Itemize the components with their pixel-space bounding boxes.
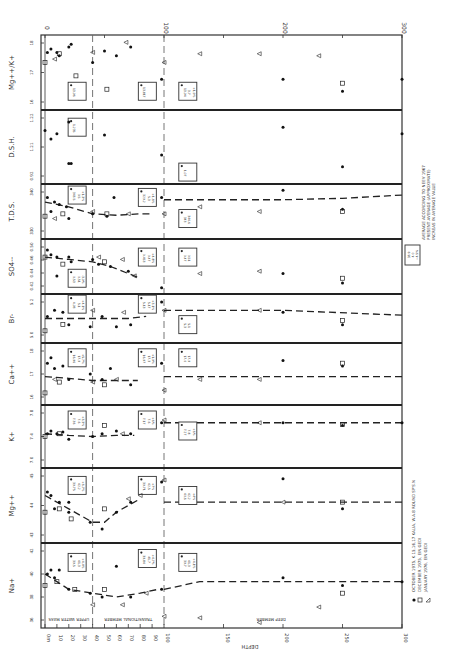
point-dec-1975 — [341, 319, 345, 323]
point-oct-1975 — [67, 217, 70, 220]
legend-dec-text: DECEMBER 1975, EIN GEDI — [417, 538, 422, 592]
point-oct-1975 — [282, 126, 285, 129]
point-oct-1975 — [160, 78, 163, 81]
value-tick-label: 38 — [29, 594, 34, 600]
bottom-depth-label: 70 — [129, 635, 135, 641]
point-oct-1975 — [46, 315, 49, 318]
bottom-depth-label: 30 — [82, 635, 88, 641]
top-depth-label: 200 — [282, 22, 289, 34]
trend-line — [164, 582, 402, 590]
point-oct-1975 — [55, 274, 58, 277]
point-jan-1976 — [122, 310, 126, 314]
point-oct-1975 — [282, 359, 285, 362]
legend-oct-marker — [412, 598, 415, 601]
value-tick-label: 43 — [29, 532, 34, 538]
box-value: 7.6 — [147, 419, 151, 424]
panel-label-1: D.S.H. — [8, 136, 16, 158]
point-oct-1975 — [53, 576, 56, 579]
box-marker — [70, 413, 72, 415]
point-oct-1975 — [67, 438, 70, 441]
bottom-depth-label: 50 — [106, 635, 112, 641]
point-jan-1976 — [257, 421, 261, 425]
point-oct-1975 — [109, 367, 112, 370]
point-jan-1976 — [97, 255, 101, 259]
point-oct-1975 — [91, 258, 94, 261]
point-oct-1975 — [160, 286, 163, 289]
point-oct-1975 — [55, 432, 58, 435]
box-value: 0.47 — [183, 255, 187, 262]
box-value: +6% — [192, 428, 196, 435]
panel-label-0: Mg++/K+ — [8, 55, 16, 90]
legend-jan-marker — [426, 598, 430, 602]
value-tick-label: 44 — [29, 503, 34, 509]
point-oct-1975 — [129, 383, 132, 386]
value-tick-label: 5.0 — [29, 331, 34, 338]
box-marker — [181, 318, 183, 320]
plot-area: 01002003000m1020304050607080901001502002… — [8, 22, 436, 650]
value-tick-label: 42 — [29, 548, 34, 554]
value-tick-label: 0.50 — [29, 242, 34, 251]
value-tick-label: 0.44 — [29, 268, 34, 277]
legend-dec-marker — [418, 598, 422, 602]
point-jan-1976 — [53, 57, 57, 61]
box-value: 5.13 — [142, 302, 146, 309]
box-marker — [181, 211, 183, 213]
box-value: +4.7% — [151, 554, 155, 564]
point-oct-1975 — [55, 132, 58, 135]
top-depth-label: 0 — [44, 26, 51, 30]
box-value: 1.07 — [183, 170, 187, 177]
box-value: 7.36 — [72, 418, 76, 425]
box-value: 329.2 — [142, 194, 146, 203]
point-oct-1975 — [91, 61, 94, 64]
value-tick-label: 18 — [29, 40, 34, 46]
point-oct-1975 — [49, 253, 52, 256]
point-oct-1975 — [70, 162, 73, 165]
top-depth-label: 300 — [401, 22, 408, 34]
point-oct-1975 — [49, 494, 52, 497]
point-oct-1975 — [67, 378, 70, 381]
point-oct-1975 — [160, 301, 163, 304]
point-oct-1975 — [115, 54, 118, 57]
box-value: +7% — [151, 483, 155, 490]
box-value: 39.7 — [183, 560, 187, 567]
box-value: +4.8% — [151, 253, 155, 263]
box-value: 0.453 — [142, 254, 146, 263]
point-jan-1976 — [198, 52, 202, 56]
box-value: +6% — [151, 417, 155, 424]
point-oct-1975 — [129, 596, 132, 599]
box-value: +1.6% — [151, 193, 155, 203]
box-value: 41.7 — [147, 556, 151, 563]
bottom-depth-label: 40 — [94, 635, 100, 641]
box-value: 7.6 — [77, 419, 81, 424]
box-value: 17.9 — [77, 355, 81, 362]
point-oct-1975 — [101, 315, 104, 318]
box-value: 42.5 — [147, 483, 151, 490]
panel-label-8: Na+ — [8, 578, 16, 594]
point-oct-1975 — [58, 203, 61, 206]
box-marker — [70, 478, 72, 480]
box-marker — [140, 551, 142, 553]
bottom-depth-label: 100 — [165, 633, 171, 643]
point-dec-1975 — [103, 383, 107, 387]
point-oct-1975 — [401, 132, 404, 135]
depth-axis-title: DEPTH — [241, 644, 258, 650]
box-value: +4.1% — [81, 300, 85, 310]
box-value: 16.96 — [72, 355, 76, 364]
point-dec-1975 — [341, 81, 345, 85]
panel-label-6: K+ — [8, 431, 16, 442]
point-jan-1976 — [120, 257, 124, 261]
point-oct-1975 — [282, 311, 285, 314]
box-value: 0.5 — [77, 194, 81, 199]
point-oct-1975 — [101, 432, 104, 435]
point-oct-1975 — [55, 51, 58, 54]
trend-line — [164, 195, 402, 200]
point-oct-1975 — [49, 356, 52, 359]
bottom-depth-label: 300 — [403, 633, 409, 643]
box-value: 5.3 — [147, 196, 151, 201]
box-value: 42.2 — [77, 483, 81, 490]
point-jan-1976 — [53, 217, 57, 221]
point-jan-1976 — [126, 497, 130, 501]
point-oct-1975 — [61, 431, 64, 434]
point-oct-1975 — [46, 51, 49, 54]
box-value: 5.1 — [77, 303, 81, 308]
